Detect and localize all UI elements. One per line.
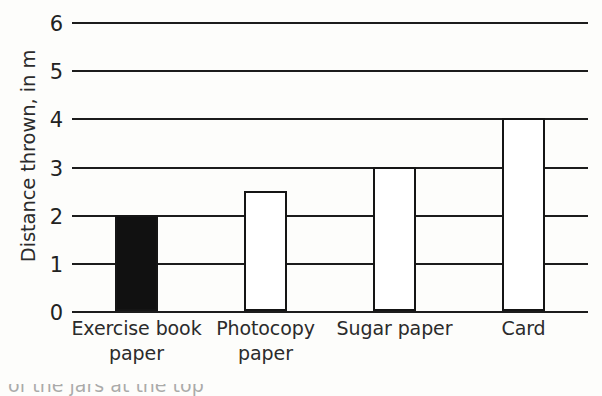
bar <box>115 215 158 311</box>
y-tick-label-6: 6 <box>50 14 63 35</box>
y-tick-label-0: 0 <box>50 303 63 324</box>
y-tick-label-5: 5 <box>50 62 63 83</box>
x-axis-category-label: Card <box>501 316 545 341</box>
y-tick-label-2: 2 <box>50 206 63 227</box>
x-axis-category-label: Exercise book paper <box>71 316 201 366</box>
clipped-caption-text: of the jars at the top <box>8 384 308 395</box>
plot-area: 0123456 <box>72 22 588 311</box>
gridline-6: 6 <box>72 22 588 24</box>
x-axis-category-labels: Exercise book paperPhotocopy paperSugar … <box>72 316 588 376</box>
bar <box>244 191 287 311</box>
gridline-0: 0 <box>72 311 588 313</box>
gridline-5: 5 <box>72 70 588 72</box>
y-axis-label: Distance thrown, in m <box>12 0 46 312</box>
bar-chart-figure: Distance thrown, in m 0123456 Exercise b… <box>0 0 602 396</box>
y-tick-label-1: 1 <box>50 254 63 275</box>
y-tick-label-3: 3 <box>50 158 63 179</box>
bar <box>373 167 416 312</box>
bar <box>502 118 545 311</box>
x-axis-category-label: Photocopy paper <box>216 316 315 366</box>
clipped-caption-strip: of the jars at the top <box>8 384 308 396</box>
x-axis-category-label: Sugar paper <box>337 316 453 341</box>
y-tick-label-4: 4 <box>50 110 63 131</box>
